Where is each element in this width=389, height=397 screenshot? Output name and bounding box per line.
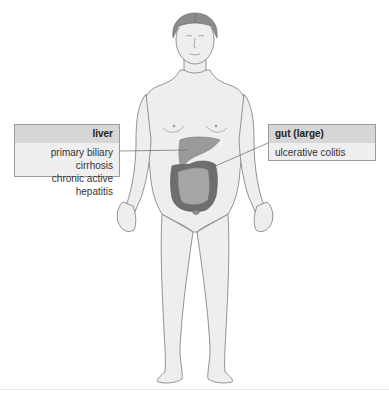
right-hand (254, 202, 273, 232)
gut-condition: ulcerative colitis (275, 146, 369, 159)
liver-condition: chronic active hepatitis (21, 172, 113, 198)
liver-label-title: liver (15, 125, 119, 143)
liver-label-box: liver primary biliary cirrhosis chronic … (14, 124, 120, 177)
gut-label-title: gut (large) (269, 125, 375, 143)
gut-large-label-box: gut (large) ulcerative colitis (268, 124, 376, 161)
liver-condition: primary biliary cirrhosis (21, 146, 113, 172)
legs (157, 214, 232, 383)
gut-label-items: ulcerative colitis (269, 143, 375, 162)
left-hand (117, 202, 136, 232)
small-intestine-organ (178, 168, 210, 205)
bottom-divider (0, 389, 389, 390)
liver-label-items: primary biliary cirrhosis chronic active… (15, 143, 119, 201)
